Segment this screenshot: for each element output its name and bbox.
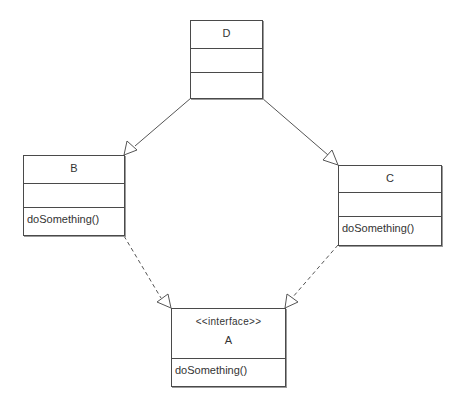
realization-arrowhead-b	[157, 294, 171, 308]
class-name: D	[191, 27, 262, 39]
generalization-line-b-d	[135, 98, 191, 146]
generalization-line-c-d	[262, 98, 328, 155]
class-name: A	[172, 334, 285, 346]
generalization-arrowhead-b	[124, 141, 137, 155]
class-b[interactable]: B doSomething()	[23, 155, 125, 236]
class-c-operations-compartment: doSomething()	[339, 217, 441, 245]
class-d-name-compartment: D	[191, 21, 262, 49]
stereotype-label: <<interface>>	[172, 316, 285, 327]
class-c-attributes-compartment	[339, 193, 441, 217]
class-d-operations-compartment	[191, 73, 262, 98]
class-d-attributes-compartment	[191, 49, 262, 73]
class-b-operations-compartment: doSomething()	[24, 208, 124, 235]
class-c-name-compartment: C	[339, 166, 441, 193]
class-name: B	[24, 162, 124, 174]
operation: doSomething()	[175, 359, 285, 378]
interface-a-operations-compartment: doSomething()	[172, 359, 285, 386]
realization-line-c-a	[292, 245, 338, 298]
class-name: C	[339, 172, 441, 184]
realization-line-b-a	[124, 236, 161, 298]
interface-a[interactable]: <<interface>> A doSomething()	[171, 308, 286, 387]
class-c[interactable]: C doSomething()	[338, 165, 442, 246]
uml-diagram-canvas: D B doSomething() C doSomething() <<inte…	[0, 0, 462, 410]
class-d[interactable]: D	[190, 20, 263, 99]
class-b-attributes-compartment	[24, 184, 124, 208]
realization-arrowhead-c	[285, 294, 298, 308]
interface-a-name-compartment: <<interface>> A	[172, 309, 285, 359]
operation: doSomething()	[342, 217, 441, 236]
operation: doSomething()	[27, 208, 124, 227]
class-b-name-compartment: B	[24, 156, 124, 184]
